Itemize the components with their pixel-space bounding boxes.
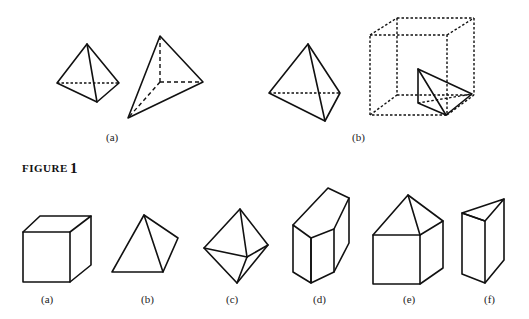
tetrahedron-a2 <box>128 36 203 118</box>
figure-canvas: (a) (b) FIGURE 1 <box>0 0 529 319</box>
label-bottom-b: (b) <box>141 293 154 306</box>
label-bottom-d: (d) <box>313 293 326 306</box>
pyramid <box>112 215 178 272</box>
label-bottom-e: (e) <box>403 293 416 306</box>
figure-caption-word: FIGURE <box>22 162 68 174</box>
octahedron <box>204 209 268 283</box>
figure-caption-number: 1 <box>70 160 78 176</box>
cube <box>23 216 91 282</box>
corner-tetrahedron <box>418 69 472 115</box>
tetrahedron-a1 <box>57 44 119 102</box>
tetrahedron-b <box>269 44 340 121</box>
triangular-prism <box>462 199 504 283</box>
label-top-a: (a) <box>106 131 119 144</box>
label-top-b: (b) <box>352 131 365 144</box>
label-bottom-f: (f) <box>484 293 495 306</box>
label-bottom-a: (a) <box>41 293 54 306</box>
dotted-cube <box>370 18 474 115</box>
house-solid <box>373 195 443 284</box>
label-bottom-c: (c) <box>226 293 239 306</box>
truncated-prism <box>293 188 349 283</box>
